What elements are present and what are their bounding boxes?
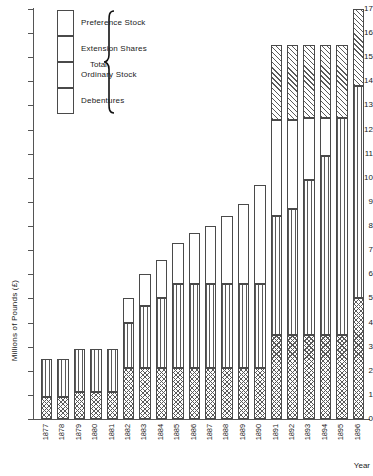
x-axis-title: Year [354, 461, 370, 470]
bar-1879[interactable] [74, 418, 85, 419]
bar-segment-ordinary [221, 284, 232, 368]
x-axis-line [33, 419, 370, 420]
bar-segment-extension [205, 226, 216, 284]
bar-segment-extension [303, 118, 314, 181]
bar-1894[interactable] [320, 418, 331, 419]
bar-segment-debentures [156, 368, 167, 419]
bar-segment-debentures [303, 335, 314, 419]
bar-segment-ordinary [139, 306, 150, 369]
legend-label-debentures: Debentures [81, 97, 124, 105]
bar-1885[interactable] [172, 418, 183, 419]
bar-segment-extension [139, 274, 150, 305]
bar-1887[interactable] [205, 418, 216, 419]
legend-label-preference: Preference Stock [81, 19, 146, 27]
x-axis-tick-label: 1889 [239, 424, 248, 440]
y-axis-tick [28, 419, 33, 420]
y-axis-tick [28, 250, 33, 251]
bar-segment-debentures [353, 298, 364, 419]
x-axis-tick-label: 1887 [206, 424, 215, 440]
bar-segment-preference [353, 9, 364, 86]
bar-1892[interactable] [287, 418, 298, 419]
bar-1880[interactable] [90, 418, 101, 419]
x-axis-tick-label: 1880 [91, 424, 100, 440]
x-axis-tick-label: 1878 [58, 424, 67, 440]
bar-segment-ordinary [57, 359, 68, 398]
bar-segment-ordinary [41, 359, 52, 398]
bar-segment-ordinary [353, 86, 364, 298]
bar-1886[interactable] [189, 418, 200, 419]
bar-segment-ordinary [238, 284, 249, 368]
bar-segment-extension [221, 216, 232, 284]
y-axis-tick [28, 81, 33, 82]
bar-segment-ordinary [123, 323, 134, 369]
y-axis-tick [28, 130, 33, 131]
bar-segment-preference [336, 45, 347, 117]
y-axis-title: Millions of Pounds (£) [10, 261, 19, 381]
y-axis-tick [28, 33, 33, 34]
bar-segment-debentures [74, 392, 85, 419]
bar-segment-ordinary [254, 284, 265, 368]
bar-segment-debentures [90, 392, 101, 419]
bar-segment-ordinary [90, 349, 101, 392]
bar-segment-ordinary [287, 209, 298, 334]
x-axis-tick-label: 1893 [304, 424, 313, 440]
y-axis-tick [28, 274, 33, 275]
y-axis-tick [28, 371, 33, 372]
x-axis-tick-label: 1894 [321, 424, 330, 440]
bar-1883[interactable] [139, 418, 150, 419]
bar-segment-extension [287, 120, 298, 209]
bar-1893[interactable] [303, 418, 314, 419]
legend-swatch-preference [57, 10, 74, 36]
legend-label-extension: Extension Shares [81, 45, 147, 53]
bar-1891[interactable] [271, 418, 282, 419]
legend-swatch-debentures [57, 88, 74, 114]
bar-segment-ordinary [172, 284, 183, 368]
x-axis-tick-label: 1881 [108, 424, 117, 440]
x-axis-tick-label: 1896 [354, 424, 363, 440]
bar-segment-preference [271, 45, 282, 120]
y-axis-tick [28, 105, 33, 106]
bar-segment-ordinary [336, 118, 347, 335]
bar-segment-extension [156, 260, 167, 299]
bar-segment-debentures [172, 368, 183, 419]
x-axis-tick-label: 1885 [173, 424, 182, 440]
y-axis-tick [28, 347, 33, 348]
bar-1888[interactable] [221, 418, 232, 419]
bar-1882[interactable] [123, 418, 134, 419]
bar-segment-debentures [41, 397, 52, 419]
x-axis-tick-label: 1890 [255, 424, 264, 440]
y-axis-tick [28, 9, 33, 10]
y-axis-tick [28, 57, 33, 58]
bar-1889[interactable] [238, 418, 249, 419]
bar-1881[interactable] [107, 418, 118, 419]
bar-segment-ordinary [189, 284, 200, 368]
y-axis-tick [28, 154, 33, 155]
bar-segment-ordinary [320, 156, 331, 334]
bar-1884[interactable] [156, 418, 167, 419]
y-axis-tick [28, 226, 33, 227]
bar-1895[interactable] [336, 418, 347, 419]
x-axis-tick-label: 1882 [124, 424, 133, 440]
bar-segment-ordinary [303, 180, 314, 334]
bar-segment-debentures [123, 368, 134, 419]
bar-segment-debentures [57, 397, 68, 419]
x-axis-tick-label: 1895 [337, 424, 346, 440]
y-axis-tick [28, 178, 33, 179]
bar-1890[interactable] [254, 418, 265, 419]
legend-swatch-extension [57, 36, 74, 62]
x-axis-tick-label: 1879 [75, 424, 84, 440]
legend-total-label: Total [90, 60, 107, 69]
bar-1877[interactable] [41, 418, 52, 419]
bar-1896[interactable] [353, 418, 364, 419]
bar-segment-debentures [271, 335, 282, 419]
bar-segment-preference [303, 45, 314, 117]
bar-segment-debentures [189, 368, 200, 419]
bar-1878[interactable] [57, 418, 68, 419]
bar-segment-extension [238, 204, 249, 284]
bar-segment-ordinary [107, 349, 118, 392]
bar-segment-extension [320, 118, 331, 157]
bar-segment-ordinary [271, 216, 282, 334]
x-axis-tick-label: 1888 [222, 424, 231, 440]
x-axis-tick-label: 1892 [288, 424, 297, 440]
bar-segment-debentures [287, 335, 298, 419]
